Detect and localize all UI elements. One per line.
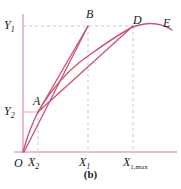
figure-caption: (b) [0,168,181,180]
x-tick-label-X1max: X1,max [123,156,148,168]
y-tick-label-Y2: Y2 [4,105,15,117]
x-tick-label-X2: X2 [28,156,39,168]
y-tick-label-Y1-subscript: 1 [11,25,15,34]
point-label-E: E [163,17,170,29]
figure-container: Y1 Y2 O X2 X1 X1,max A B D E (b) [0,0,181,189]
concave-curve-O-E [23,24,172,152]
chord-O-B [24,26,88,152]
point-label-B: B [86,8,93,20]
point-label-A: A [33,95,40,107]
x-tick-label-X1: X1 [79,156,90,168]
y-tick-label-Y1: Y1 [4,19,15,31]
y-tick-label-Y2-subscript: 2 [11,111,15,120]
chord-A-D [38,26,133,112]
point-label-D: D [133,14,142,26]
